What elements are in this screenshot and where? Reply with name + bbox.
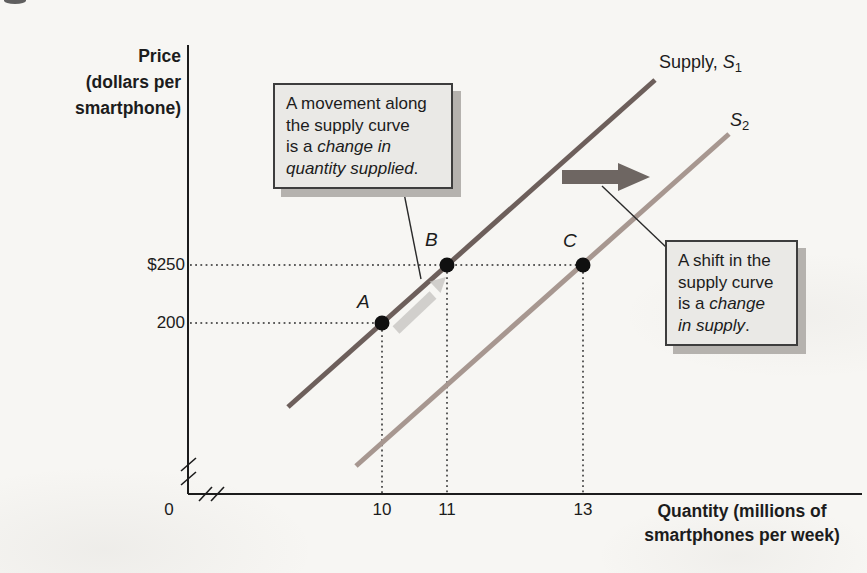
origin-label: 0 [156, 500, 182, 520]
y-axis-title-line3: smartphone) [38, 95, 181, 121]
curve-label-s2-symbol: S [730, 110, 742, 130]
y-axis-title: Price (dollars per smartphone) [38, 43, 181, 121]
callout-movement-line3: is a change in [286, 136, 440, 158]
point-c-label: C [563, 230, 577, 252]
y-tick-250: $250 [118, 255, 185, 275]
y-axis-title-line2: (dollars per [38, 69, 181, 95]
curve-label-s2-subscript: 2 [742, 118, 749, 133]
callout-movement-along-curve: A movement along the supply curve is a c… [273, 83, 453, 189]
callout-shift-of-curve: A shift in the supply curve is a change … [665, 240, 798, 346]
point-a-dot [375, 316, 390, 331]
curve-label-s1-subscript: 1 [735, 60, 742, 75]
supply-shift-figure: Price (dollars per smartphone) Quantity … [0, 0, 867, 573]
curve-label-s1-symbol: S [723, 52, 735, 72]
callout-shift-line2: supply curve [678, 272, 785, 294]
callout-movement-line4: quantity supplied. [286, 158, 440, 180]
point-b-label: B [425, 229, 438, 251]
x-tick-10: 10 [367, 500, 397, 520]
x-axis-title-line2: smartphones per week) [620, 523, 864, 547]
x-axis-title-line1: Quantity (millions of [620, 499, 864, 523]
callout-movement-line2: the supply curve [286, 115, 440, 137]
point-a-label: A [357, 291, 370, 313]
x-axis-title: Quantity (millions of smartphones per we… [620, 499, 864, 547]
curve-label-s1-prefix: Supply, [659, 52, 723, 72]
y-tick-200: 200 [118, 313, 185, 333]
callout-shift-line3: is a change [678, 293, 785, 315]
callout-movement-line1: A movement along [286, 93, 440, 115]
x-tick-11: 11 [432, 500, 462, 520]
curve-label-s1: Supply, S1 [659, 52, 742, 73]
shift-right-arrow [562, 163, 650, 191]
curve-label-s2: S2 [730, 110, 749, 131]
point-c-dot [576, 258, 591, 273]
callout-shift-line4: in supply. [678, 315, 785, 337]
callout-shift-line1: A shift in the [678, 250, 785, 272]
y-axis-title-line1: Price [38, 43, 181, 69]
x-tick-13: 13 [568, 500, 598, 520]
point-b-dot [440, 258, 455, 273]
